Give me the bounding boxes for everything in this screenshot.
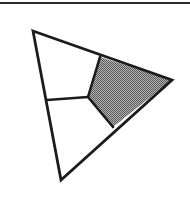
figure-container (0, 0, 190, 203)
triangle-partition-figure (0, 0, 190, 203)
